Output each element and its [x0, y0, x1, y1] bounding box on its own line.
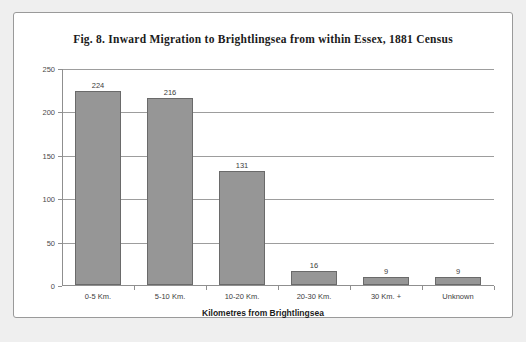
x-tick-mark: [422, 286, 423, 290]
x-tick-mark: [494, 286, 495, 290]
gridline: [62, 156, 494, 157]
bar[interactable]: [363, 277, 409, 285]
y-tick-label: 50: [47, 238, 55, 247]
x-tick-mark: [278, 286, 279, 290]
category-label: 30 Km. +: [371, 292, 401, 301]
y-tick-label: 100: [42, 195, 55, 204]
category-label: 20-30 Km.: [297, 292, 332, 301]
y-tick-label: 250: [42, 65, 55, 74]
plot-area: 050100150200250 2242161311699: [62, 69, 494, 286]
bar-value-label: 131: [236, 161, 249, 170]
y-tick-mark: [58, 286, 62, 287]
y-tick-label: 0: [51, 282, 55, 291]
bar-value-label: 16: [310, 261, 318, 270]
category-label: 5-10 Km.: [155, 292, 185, 301]
category-label: Unknown: [442, 292, 473, 301]
figure-frame: Fig. 8. Inward Migration to Brightlingse…: [13, 12, 513, 318]
category-label: 0-5 Km.: [85, 292, 111, 301]
x-axis-title: Kilometres from Brightlingsea: [14, 308, 512, 318]
bar[interactable]: [435, 277, 481, 285]
x-tick-mark: [134, 286, 135, 290]
bar[interactable]: [291, 271, 337, 285]
bar-value-label: 224: [92, 81, 105, 90]
bar[interactable]: [147, 98, 193, 285]
category-label: 10-20 Km.: [225, 292, 260, 301]
bar[interactable]: [75, 91, 121, 285]
y-tick-label: 200: [42, 108, 55, 117]
gridline: [62, 243, 494, 244]
gridline: [62, 112, 494, 113]
y-axis-line: [62, 69, 63, 286]
bar[interactable]: [219, 171, 265, 285]
bar-value-label: 216: [164, 88, 177, 97]
gridline: [62, 199, 494, 200]
chart-title: Fig. 8. Inward Migration to Brightlingse…: [14, 33, 512, 45]
x-tick-mark: [350, 286, 351, 290]
x-tick-mark: [206, 286, 207, 290]
bar-value-label: 9: [456, 267, 460, 276]
gridline: [62, 69, 494, 70]
y-tick-label: 150: [42, 151, 55, 160]
bar-value-label: 9: [384, 267, 388, 276]
x-axis-line: [62, 285, 494, 286]
